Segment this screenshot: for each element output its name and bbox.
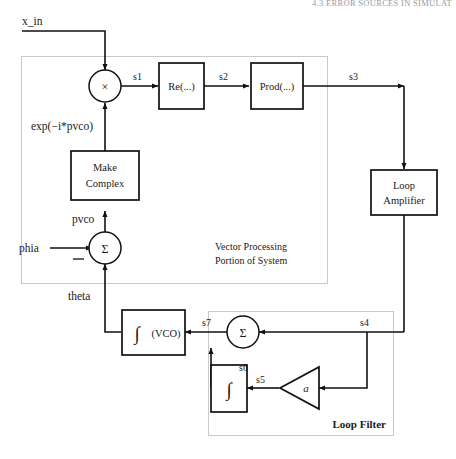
prod-block-label: Prod(...) <box>260 81 295 93</box>
gain-label: a <box>303 382 309 394</box>
vco-label: (VCO) <box>151 328 181 340</box>
label-s3: s3 <box>349 71 358 82</box>
re-block-label: Re(...) <box>168 81 195 93</box>
make-complex-label-2: Complex <box>86 178 125 189</box>
make-complex-label-1: Make <box>93 162 117 173</box>
loop-amplifier-block <box>371 170 437 215</box>
label-x-in: x_in <box>22 15 43 27</box>
vector-processing-caption-2: Portion of System <box>215 255 287 266</box>
wire-s4-tap-to-gain <box>319 332 367 388</box>
label-theta: theta <box>68 290 90 302</box>
label-s6: s6 <box>239 362 248 373</box>
loop-amplifier-label-2: Amplifier <box>383 195 425 206</box>
gain-block <box>280 367 319 409</box>
label-pvco: pvco <box>72 213 95 226</box>
make-complex-block <box>71 151 139 200</box>
loop-summer-label: Σ <box>240 326 247 340</box>
label-phia: phia <box>19 242 39 255</box>
loop-amplifier-label-1: Loop <box>393 180 415 191</box>
wire-x-in <box>22 31 105 70</box>
block-diagram-svg: × Re(...) Prod(...) Make Complex Σ Loop … <box>0 0 456 459</box>
label-s4: s4 <box>360 317 369 328</box>
label-s5: s5 <box>256 374 265 385</box>
label-exp: exp(−i*pvco) <box>31 120 93 133</box>
vector-processing-caption-1: Vector Processing <box>215 241 287 252</box>
label-s1: s1 <box>133 71 142 82</box>
figure-canvas: 4.3 ERROR SOURCES IN SIMULAT <box>0 0 456 459</box>
label-s2: s2 <box>219 71 228 82</box>
vector-summer-label: Σ <box>102 242 109 256</box>
multiplier-label: × <box>102 80 109 94</box>
loop-filter-caption: Loop Filter <box>333 418 387 430</box>
label-s7: s7 <box>202 317 211 328</box>
wire-theta <box>105 264 121 332</box>
